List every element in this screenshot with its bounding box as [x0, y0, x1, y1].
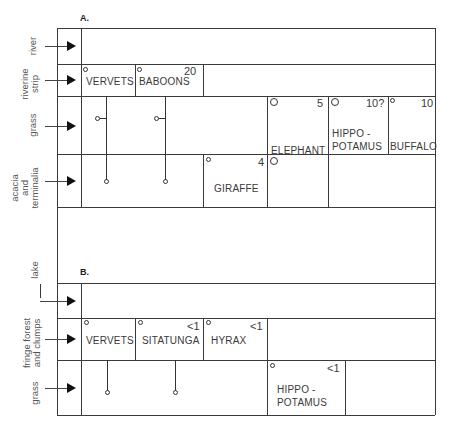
arrowhead-icon — [67, 334, 76, 344]
zone-label-grass: grass — [28, 110, 38, 140]
dot-icon — [154, 116, 159, 121]
range-stem — [107, 360, 108, 391]
animal-giraffe: GIRAFFE — [214, 182, 259, 195]
count-hyrax: <1 — [250, 320, 263, 332]
arrowhead-icon — [67, 75, 76, 85]
cell-divider — [135, 64, 136, 96]
name-line: POTAMUS — [332, 140, 382, 153]
panel-b-label: B. — [80, 267, 89, 277]
zone-label-line: terminalia — [30, 159, 40, 217]
arrowhead-icon — [67, 176, 76, 186]
range-stem — [106, 96, 107, 180]
arrowhead-icon — [67, 383, 76, 393]
dot-icon — [270, 363, 275, 368]
cell-divider — [267, 96, 268, 207]
divider — [57, 154, 435, 155]
range-tick — [159, 118, 165, 119]
zone-label-line: and clumps — [32, 307, 42, 379]
zone-label-river: river — [28, 31, 38, 61]
animal-hippopotamus-a: HIPPO - POTAMUS — [332, 127, 382, 153]
dot-icon — [84, 320, 89, 325]
count-hippopotamus-a: 10? — [366, 97, 384, 109]
animal-hippopotamus-b: HIPPO - POTAMUS — [277, 383, 327, 409]
zone-label-riverine-strip: riverine strip — [20, 60, 40, 108]
zone-label-line: strip — [30, 60, 40, 108]
dot-icon — [173, 390, 178, 395]
count-elephant: 5 — [317, 97, 323, 109]
cell-divider — [345, 360, 346, 415]
range-stem — [175, 360, 176, 391]
animal-sitatunga: SITATUNGA — [142, 334, 200, 347]
dot-icon — [137, 67, 142, 72]
dot-icon — [206, 157, 211, 162]
cell-divider — [203, 154, 204, 207]
divider — [57, 283, 435, 284]
divider — [57, 415, 435, 416]
divider — [57, 64, 435, 65]
divider — [57, 318, 435, 319]
zone-label-lake: lake — [30, 255, 40, 285]
cell-divider — [203, 64, 204, 96]
animal-baboons: BABOONS — [139, 75, 190, 88]
dot-icon — [105, 390, 110, 395]
dot-icon — [83, 67, 88, 72]
dot-icon — [104, 179, 109, 184]
cell-divider — [267, 318, 268, 360]
cell-divider — [267, 360, 268, 415]
name-line: HIPPO - — [277, 383, 327, 396]
animal-vervets-a: VERVETS — [86, 75, 134, 88]
cell-divider — [203, 318, 204, 360]
dot-icon — [270, 157, 278, 165]
animal-elephant: ELEPHANT — [271, 144, 325, 157]
name-line: HIPPO - — [332, 127, 382, 140]
zone-divider — [81, 283, 82, 415]
animal-buffalo: BUFFALO — [390, 140, 437, 153]
animal-hyrax: HYRAX — [211, 334, 246, 347]
divider — [57, 207, 435, 208]
dot-icon — [270, 98, 278, 106]
outer-left-border — [57, 28, 58, 415]
zone-label-acacia-terminalia: acacia and terminalia — [10, 159, 40, 217]
outer-right-border — [435, 28, 436, 415]
divider — [57, 28, 435, 29]
count-hippopotamus-b: <1 — [327, 362, 340, 374]
divider — [57, 360, 435, 361]
dot-icon — [163, 179, 168, 184]
dot-icon — [138, 320, 143, 325]
count-giraffe: 4 — [258, 156, 264, 168]
name-line: POTAMUS — [277, 396, 327, 409]
cell-divider — [135, 318, 136, 360]
cell-divider — [388, 96, 389, 154]
cell-divider — [328, 96, 329, 207]
zone-divider — [81, 28, 82, 207]
dot-icon — [390, 98, 395, 103]
lake-pointer — [40, 284, 41, 298]
animal-vervets-b: VERVETS — [86, 334, 134, 347]
dot-icon — [95, 116, 100, 121]
arrowhead-icon — [67, 296, 76, 306]
arrowhead-icon — [67, 121, 76, 131]
arrowhead-icon — [67, 41, 76, 51]
arrow-lake — [40, 301, 70, 302]
range-tick — [100, 118, 106, 119]
dot-icon — [331, 98, 339, 106]
zone-label-grass-b: grass — [30, 378, 40, 408]
range-stem — [165, 96, 166, 180]
count-sitatunga: <1 — [187, 320, 200, 332]
count-buffalo: 10 — [421, 97, 433, 109]
panel-a-label: A. — [80, 13, 89, 23]
dot-icon — [206, 320, 211, 325]
zone-label-fringe-forest: fringe forest and clumps — [22, 307, 42, 379]
